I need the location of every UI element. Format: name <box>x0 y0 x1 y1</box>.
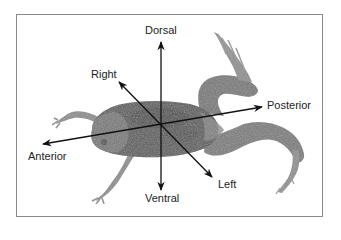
label-left: Left <box>218 179 236 190</box>
hind-foot-lower <box>278 150 299 193</box>
label-dorsal: Dorsal <box>145 25 177 36</box>
label-right: Right <box>91 69 117 80</box>
label-ventral: Ventral <box>145 193 179 204</box>
front-limb-upper <box>56 111 100 124</box>
label-posterior: Posterior <box>267 100 311 111</box>
frog-eye <box>101 139 107 145</box>
frog-illustration <box>52 32 304 204</box>
label-anterior: Anterior <box>28 151 67 162</box>
front-limb-lower <box>96 150 136 201</box>
